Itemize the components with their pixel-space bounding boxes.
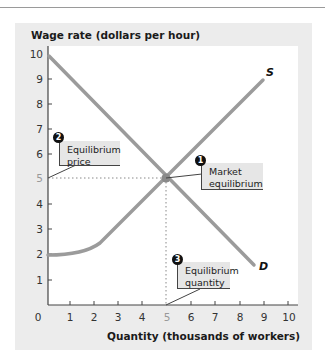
x-tick-label: 6: [181, 311, 201, 323]
badge-3-icon: 3: [172, 254, 183, 265]
supply-label: S: [266, 66, 274, 79]
y-tick-label-highlight: 5: [27, 172, 43, 184]
demand-label: D: [259, 260, 268, 273]
x-tick-label: 8: [230, 311, 250, 323]
y-tick-label: 2: [27, 248, 43, 260]
x-tick-label: 10: [279, 311, 299, 323]
x-tick-label-highlight: 5: [157, 311, 177, 323]
y-tick-label: 1: [27, 274, 43, 286]
badge-1-icon: 1: [195, 155, 206, 166]
note-equilibrium-quantity: Equilibrium quantity: [177, 262, 230, 289]
note-text-line1: Equilibrium: [67, 144, 116, 156]
x-tick-label: 4: [132, 311, 152, 323]
note-market-equilibrium: Market equilibrium: [201, 163, 263, 190]
y-tick-label: 4: [27, 198, 43, 210]
note-text-line1: Equilibrium: [185, 265, 226, 277]
y-tick-label: 3: [27, 223, 43, 235]
leader-line-1: [166, 174, 202, 178]
y-tick-label: 6: [27, 148, 43, 160]
x-tick-label: 1: [60, 311, 80, 323]
note-text-line2: quantity: [185, 277, 226, 289]
x-axis-title: Quantity (thousands of workers): [107, 330, 300, 342]
x-tick-label: 3: [108, 311, 128, 323]
y-tick-label: 7: [27, 123, 43, 135]
y-tick-label: 10: [27, 48, 43, 60]
note-equilibrium-price: Equilibrium price: [59, 141, 120, 166]
x-tick-label: 7: [205, 311, 225, 323]
note-text-line2: price: [67, 156, 116, 168]
chart-svg: [0, 0, 325, 362]
y-axis-title: Wage rate (dollars per hour): [31, 29, 200, 41]
note-text-line1: Market: [209, 166, 259, 178]
x-tick-label: 0: [28, 311, 48, 323]
note-text-line2: equilibrium: [209, 178, 259, 190]
leader-line-3: [166, 289, 200, 305]
x-tick-label: 2: [84, 311, 104, 323]
x-tick-label: 9: [254, 311, 274, 323]
badge-2-icon: 2: [53, 132, 64, 143]
y-tick-label: 9: [27, 73, 43, 85]
y-tick-label: 8: [27, 98, 43, 110]
